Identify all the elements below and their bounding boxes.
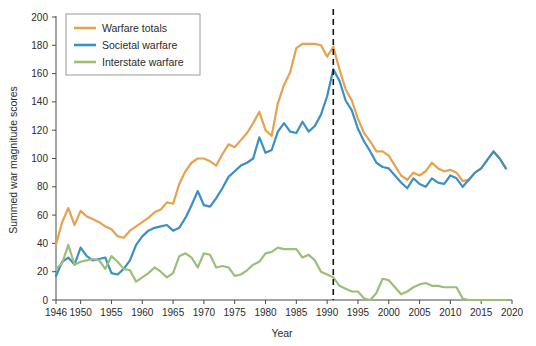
y-tick-label: 0 (42, 295, 48, 306)
war-magnitude-line-chart: 0204060801001201401601802001946195019551… (0, 0, 536, 346)
x-tick-label: 1995 (347, 307, 370, 318)
legend-label-warfare-totals: Warfare totals (102, 22, 167, 34)
y-tick-label: 40 (37, 238, 49, 249)
legend-group: Warfare totalsSocietal warfareInterstate… (66, 14, 200, 75)
x-tick-label: 2010 (439, 307, 462, 318)
x-tick-label: 2015 (470, 307, 493, 318)
series-line-interstate-warfare (56, 245, 506, 300)
x-tick-label: 2000 (378, 307, 401, 318)
x-tick-label: 1990 (316, 307, 339, 318)
x-tick-label: 1950 (70, 307, 93, 318)
series-line-societal-warfare (56, 69, 506, 276)
x-tick-label: 2005 (408, 307, 431, 318)
y-tick-label: 80 (37, 181, 49, 192)
y-axis-title: Summed war magnitude scores (7, 86, 19, 234)
x-tick-label: 1946 (45, 307, 68, 318)
series-group (56, 44, 506, 300)
x-tick-label: 1965 (162, 307, 185, 318)
x-tick-label: 1975 (224, 307, 247, 318)
y-tick-label: 160 (31, 68, 48, 79)
y-tick-label: 60 (37, 210, 49, 221)
legend-label-societal-warfare: Societal warfare (102, 39, 177, 51)
legend-label-interstate-warfare: Interstate warfare (102, 56, 184, 68)
x-tick-label: 2020 (501, 307, 524, 318)
x-tick-label: 1955 (100, 307, 123, 318)
y-tick-label: 200 (31, 12, 48, 23)
chart-canvas: 0204060801001201401601802001946195019551… (0, 0, 536, 346)
y-tick-label: 140 (31, 96, 48, 107)
x-tick-label: 1985 (285, 307, 308, 318)
y-tick-label: 100 (31, 153, 48, 164)
y-tick-label: 20 (37, 266, 49, 277)
x-tick-label: 1980 (254, 307, 277, 318)
x-tick-label: 1960 (131, 307, 154, 318)
y-tick-label: 180 (31, 40, 48, 51)
x-axis-title: Year (271, 327, 293, 339)
x-tick-label: 1970 (193, 307, 216, 318)
y-tick-label: 120 (31, 125, 48, 136)
